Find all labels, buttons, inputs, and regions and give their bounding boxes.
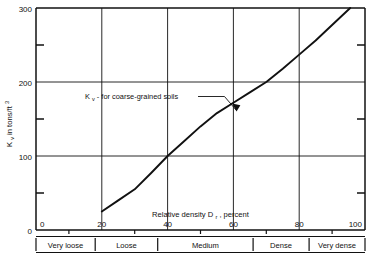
band-label-loose: Loose [116,241,137,250]
band-label-dense: Dense [270,241,292,250]
y-axis-title: K v in tons/ft 3 [4,101,16,147]
y-axis-title-superscript: 3 [4,101,10,104]
x-axis-title-post: , percent [219,210,249,219]
band-label-very-dense: Very dense [318,241,356,250]
ytick-label-0: 0 [28,227,33,236]
classification-band-strip: Very loose Loose Medium Dense Very dense [36,237,365,253]
x-axis-title-pre: Relative density D [152,210,214,219]
annotation-kv-post: - for coarse-grained soils [97,92,179,101]
annotation-kv-pre: K [85,92,90,101]
ytick-label-300: 300 [19,5,33,14]
annotation-kv-subscript: v [92,96,95,102]
y-axis-title-subscript: v [9,137,15,140]
band-label-medium: Medium [192,241,219,250]
y-axis-title-mid: in tons/ft [5,105,14,135]
xtick-label-0: 0 [40,220,45,229]
ytick-label-200: 200 [19,79,33,88]
xtick-label-60: 60 [229,220,238,229]
xtick-label-80: 80 [295,220,304,229]
xtick-label-40: 40 [163,220,172,229]
ytick-label-100: 100 [19,153,33,162]
x-axis-title-subscript: r [215,214,217,220]
xtick-label-20: 20 [97,220,106,229]
xtick-label-100: 100 [349,220,363,229]
chart-svg: 300 200 100 0 0 20 40 60 80 100 Relative… [0,0,376,255]
chart-figure: 300 200 100 0 0 20 40 60 80 100 Relative… [0,0,376,255]
y-axis-title-pre: K [5,142,14,147]
band-label-very-loose: Very loose [48,241,83,250]
